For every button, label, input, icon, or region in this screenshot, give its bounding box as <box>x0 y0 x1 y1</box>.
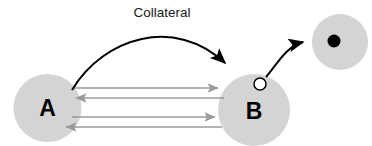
collateral-label: Collateral <box>133 5 190 20</box>
collateral-arc-arrow[interactable] <box>72 37 225 90</box>
diagram-svg: Collateral A B <box>0 0 372 146</box>
diagram-canvas: Collateral A B <box>0 0 372 146</box>
filled-bouton-icon <box>328 35 341 48</box>
node-b-label: B <box>246 98 263 124</box>
b-to-c-arc-arrow[interactable] <box>266 42 303 77</box>
node-a-label: A <box>39 95 56 121</box>
open-bouton-icon <box>254 78 266 90</box>
